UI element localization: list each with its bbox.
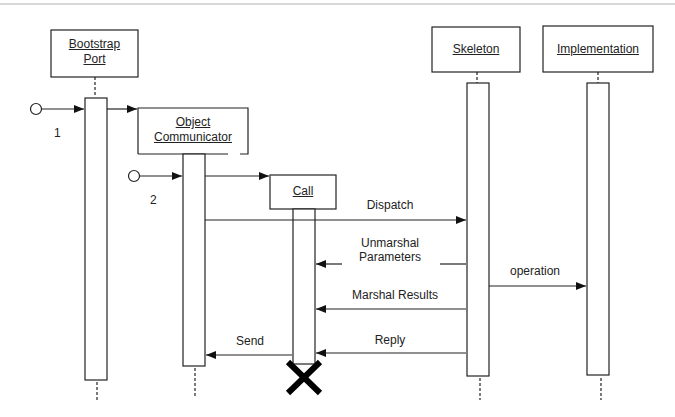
start-label-2: 2 [150,193,157,207]
bootstrap-line1: Bootstrap [51,37,138,52]
message-label-dispatch: Dispatch [340,198,440,212]
activation-bootstrap-port [85,98,107,380]
bootstrap-line2: Port [51,52,138,67]
activation-implementation [587,83,609,375]
object-label-call: Call [270,184,336,199]
message-label-marshal-results: Marshal Results [330,288,460,302]
message-label-reply: Reply [350,333,430,347]
activation-object-communicator [183,154,205,366]
unmarshal-line2: Parameters [340,250,440,264]
object-label-object-communicator: Object Communicator [138,115,248,145]
unmarshal-line1: Unmarshal [340,236,440,250]
oc-line2: Communicator [138,130,248,145]
start-label-1: 1 [54,126,61,140]
message-label-operation: operation [495,264,575,278]
object-label-bootstrap-port: Bootstrap Port [51,37,138,67]
object-label-implementation: Implementation [543,42,653,57]
oc-line1: Object [138,115,248,130]
activation-call [293,209,315,364]
activation-skeleton [467,83,489,376]
destroy-marker-icon [288,362,320,393]
message-label-send: Send [220,334,280,348]
message-label-unmarshal-parameters: Unmarshal Parameters [340,236,440,264]
object-label-skeleton: Skeleton [432,42,520,57]
